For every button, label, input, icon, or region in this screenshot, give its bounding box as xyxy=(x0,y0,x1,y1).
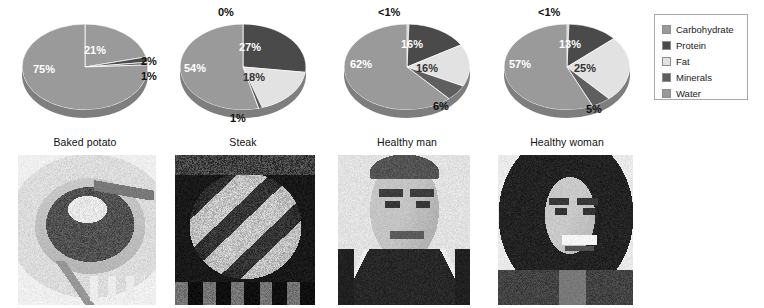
pie-graphic xyxy=(344,22,470,118)
legend-swatch-water xyxy=(662,89,671,98)
pie-caption-healthy-man: Healthy man xyxy=(322,136,492,148)
healthy-woman-image xyxy=(498,155,633,305)
legend-item-water: Water xyxy=(662,86,747,101)
pie-caption-steak: Steak xyxy=(158,136,328,148)
slice-label-protein: 13% xyxy=(559,38,581,50)
legend-label-water: Water xyxy=(676,89,701,99)
slice-label-water: 54% xyxy=(184,62,206,74)
legend-item-minerals: Minerals xyxy=(662,70,747,85)
legend: Carbohydrate Protein Fat Minerals Water xyxy=(654,14,748,100)
legend-swatch-protein xyxy=(662,41,671,50)
slice-label-minerals: 1% xyxy=(141,70,157,82)
slice-label-carbohydrate: <1% xyxy=(538,6,560,18)
steak-photo xyxy=(175,155,315,305)
figure-root: 21% 2% 1% 75% Baked potato 0% 27% 18% 1%… xyxy=(0,0,764,308)
slice-label-fat: 16% xyxy=(416,62,438,74)
legend-label-fat: Fat xyxy=(676,57,690,67)
legend-swatch-minerals xyxy=(662,73,671,82)
legend-swatch-fat xyxy=(662,57,671,66)
slice-label-water: 75% xyxy=(33,63,55,75)
healthy-woman-photo xyxy=(498,155,633,305)
slice-label-minerals: 5% xyxy=(586,103,602,115)
pie-chart-baked-potato: 21% 2% 1% 75% Baked potato xyxy=(0,0,170,150)
baked-potato-image xyxy=(18,155,156,305)
legend-swatch-carbohydrate xyxy=(662,25,671,34)
slice-label-protein: 27% xyxy=(239,41,261,53)
healthy-man-photo xyxy=(338,155,470,305)
slice-label-fat: 25% xyxy=(574,62,596,74)
slice-label-water: 57% xyxy=(509,58,531,70)
slice-label-protein: 16% xyxy=(401,38,423,50)
legend-item-protein: Protein xyxy=(662,38,747,53)
legend-label-protein: Protein xyxy=(676,41,706,51)
pie-chart-steak: 0% 27% 18% 1% 54% Steak xyxy=(158,0,328,150)
slice-label-carbohydrate: 21% xyxy=(84,44,106,56)
legend-label-carbohydrate: Carbohydrate xyxy=(676,25,734,35)
legend-label-minerals: Minerals xyxy=(676,73,712,83)
healthy-man-image xyxy=(338,155,470,305)
pie-caption-healthy-woman: Healthy woman xyxy=(482,136,652,148)
pie-chart-healthy-woman: <1% 13% 25% 5% 57% Healthy woman xyxy=(482,0,652,150)
slice-label-water: 62% xyxy=(350,58,372,70)
legend-item-carbohydrate: Carbohydrate xyxy=(662,22,747,37)
slice-label-carbohydrate: <1% xyxy=(378,6,400,18)
steak-image xyxy=(175,155,315,305)
baked-potato-photo xyxy=(18,155,156,305)
legend-item-fat: Fat xyxy=(662,54,747,69)
slice-label-minerals: 1% xyxy=(230,112,246,124)
slice-label-carbohydrate: 0% xyxy=(218,6,234,18)
slice-label-protein: 2% xyxy=(141,55,157,67)
pie-graphic xyxy=(504,22,630,118)
slice-label-minerals: 6% xyxy=(433,100,449,112)
pie-chart-healthy-man: <1% 16% 16% 6% 62% Healthy man xyxy=(322,0,492,150)
pie-caption-baked-potato: Baked potato xyxy=(0,136,170,148)
slice-label-fat: 18% xyxy=(243,71,265,83)
